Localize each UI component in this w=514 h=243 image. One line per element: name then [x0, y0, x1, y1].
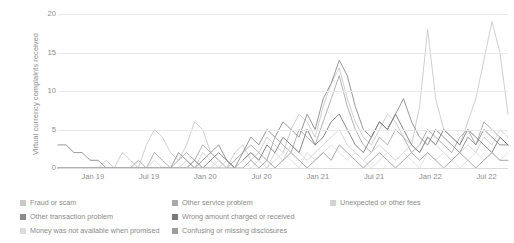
x-axis-tick: Jul 20	[239, 172, 285, 182]
x-axis-tick: Jan 19	[70, 172, 116, 182]
legend-item[interactable]: Fraud or scam	[20, 197, 170, 208]
legend-item[interactable]: Wrong amount charged or received	[172, 211, 322, 222]
legend-label: Unexpected or other fees	[340, 198, 421, 207]
legend-item[interactable]: Confusing or missing disclosures	[172, 225, 322, 236]
x-axis-tick: Jul 21	[351, 172, 397, 182]
legend-swatch-icon	[330, 200, 336, 206]
gridline	[58, 91, 508, 92]
legend-label: Confusing or missing disclosures	[182, 226, 287, 235]
x-axis-tick: Jan 22	[407, 172, 453, 182]
x-axis-tick: Jul 22	[464, 172, 510, 182]
y-axis-tick-labels: 05101520	[36, 14, 56, 168]
y-axis-tick: 5	[36, 126, 56, 134]
legend-swatch-icon	[172, 200, 178, 206]
y-axis-tick: 20	[36, 10, 56, 18]
legend-label: Wrong amount charged or received	[182, 212, 295, 221]
legend-item[interactable]: Money was not available when promised	[20, 225, 170, 236]
legend-swatch-icon	[172, 214, 178, 220]
legend-item[interactable]: Other service problem	[172, 197, 322, 208]
legend-swatch-icon	[20, 200, 26, 206]
legend-swatch-icon	[20, 228, 26, 234]
legend-item[interactable]: Unexpected or other fees	[330, 197, 490, 208]
x-axis-tick-labels: Jan 19Jul 19Jan 20Jul 20Jan 21Jul 21Jan …	[58, 172, 508, 184]
x-axis-tick: Jan 20	[182, 172, 228, 182]
series-line	[58, 22, 508, 168]
legend-column-1: Fraud or scamOther transaction problemMo…	[20, 197, 170, 237]
legend-label: Other service problem	[182, 198, 253, 207]
series-line	[58, 145, 508, 168]
y-axis-tick: 10	[36, 87, 56, 95]
plot-area	[58, 14, 508, 168]
y-axis-tick: 15	[36, 49, 56, 57]
gridline	[58, 53, 508, 54]
legend-column-2: Other service problemWrong amount charge…	[172, 197, 322, 237]
x-axis-tick: Jul 19	[126, 172, 172, 182]
legend-label: Fraud or scam	[30, 198, 76, 207]
legend-label: Other transaction problem	[30, 212, 113, 221]
gridline	[58, 168, 508, 169]
gridline	[58, 130, 508, 131]
legend: Fraud or scamOther transaction problemMo…	[20, 197, 500, 237]
legend-item[interactable]: Other transaction problem	[20, 211, 170, 222]
gridline	[58, 14, 508, 15]
legend-swatch-icon	[172, 228, 178, 234]
x-axis-tick: Jan 21	[295, 172, 341, 182]
legend-column-3: Unexpected or other fees	[330, 197, 490, 237]
y-axis-tick: 0	[36, 164, 56, 172]
legend-swatch-icon	[20, 214, 26, 220]
legend-label: Money was not available when promised	[30, 226, 159, 235]
virtual-currency-complaints-chart: Virtual currency complaints received 051…	[0, 0, 514, 243]
